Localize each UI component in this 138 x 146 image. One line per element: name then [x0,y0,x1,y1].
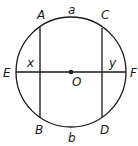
label-b-point: B [35,123,43,137]
label-arc-a: a [68,3,75,17]
label-arc-b: b [68,131,76,145]
circle-diagram: A a C E x y F O B b D [0,0,138,146]
label-e-point: E [3,66,11,80]
label-o-center: O [72,75,81,89]
label-y-angle: y [108,56,117,70]
label-d-point: D [100,123,109,137]
label-a-point: A [36,8,45,22]
center-point [69,70,74,75]
label-c-point: C [101,8,110,22]
label-f-point: F [130,66,138,80]
label-x-angle: x [26,56,35,70]
